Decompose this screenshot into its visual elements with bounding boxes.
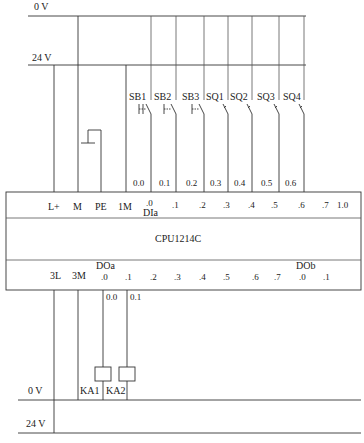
i0-3-address: 0.3 [210, 178, 222, 188]
terminal-di-3: .3 [223, 200, 230, 210]
i0-5-address: 0.5 [261, 178, 273, 188]
sb1-label: SB1 [129, 91, 146, 102]
terminal-doa-4: .4 [199, 272, 206, 282]
ka1-label: KA1 [80, 385, 99, 396]
pushbutton-icon [164, 104, 176, 114]
terminal-1m: 1M [118, 201, 132, 212]
sb3-label: SB3 [182, 91, 199, 102]
terminal-doa-0: .0 [101, 272, 108, 282]
terminal-doa-1: .1 [125, 272, 132, 282]
terminal-dob-1: .1 [323, 272, 330, 282]
limit-switch-icon [223, 104, 228, 114]
relay-coil-ka1-icon [95, 367, 111, 381]
limit-switch-icon [247, 104, 252, 114]
terminal-doa-5: .5 [223, 272, 230, 282]
q0-0-address: 0.0 [106, 292, 118, 302]
dob-group-label: DOb [296, 260, 315, 271]
top-24v-label: 24 V [32, 52, 52, 63]
wiring-diagram: 0 V 24 V SB1 0.0 SB2 0.1 SB3 [0, 0, 364, 443]
sq4-label: SQ4 [283, 91, 301, 102]
sq2-label: SQ2 [230, 91, 248, 102]
i0-0-address: 0.0 [133, 178, 145, 188]
terminal-doa-2: .2 [150, 272, 157, 282]
terminal-pe: PE [95, 201, 107, 212]
terminal-dob-0: .0 [299, 272, 306, 282]
sq1-label: SQ1 [206, 91, 224, 102]
terminal-3m: 3M [72, 270, 86, 281]
terminal-di-7: .7 [322, 200, 329, 210]
terminal-di-4: .4 [248, 200, 255, 210]
i0-2-address: 0.2 [186, 178, 197, 188]
bottom-24v-label: 24 V [26, 418, 46, 429]
i0-4-address: 0.4 [234, 178, 246, 188]
limit-switch-icon [299, 104, 304, 114]
terminal-doa-6: .6 [252, 272, 259, 282]
bottom-0v-label: 0 V [28, 385, 43, 396]
ka2-label: KA2 [106, 385, 125, 396]
terminal-di-2: .2 [199, 200, 206, 210]
ground-icon [81, 130, 101, 192]
top-0v-label: 0 V [34, 1, 49, 12]
terminal-doa-7: .7 [274, 272, 281, 282]
pushbutton-icon [192, 104, 204, 114]
i0-1-address: 0.1 [159, 178, 170, 188]
terminal-di-10: 1.0 [337, 200, 349, 210]
doa-group-label: DOa [96, 260, 115, 271]
limit-switch-icon [274, 104, 279, 114]
relay-coil-ka2-icon [119, 367, 135, 381]
terminal-doa-3: .3 [174, 272, 181, 282]
terminal-3l: 3L [50, 270, 61, 281]
terminal-di-1: .1 [172, 200, 179, 210]
plc-model-label: CPU1214C [155, 233, 201, 244]
i0-6-address: 0.6 [285, 178, 297, 188]
dia-group-label: DIa [143, 207, 159, 218]
q0-1-address: 0.1 [130, 292, 141, 302]
pushbutton-icon [139, 104, 151, 114]
terminal-m: M [73, 201, 82, 212]
terminal-lplus: L+ [48, 201, 60, 212]
sb2-label: SB2 [154, 91, 171, 102]
terminal-di-5: .5 [271, 200, 278, 210]
terminal-di-6: .6 [298, 200, 305, 210]
sq3-label: SQ3 [257, 91, 275, 102]
